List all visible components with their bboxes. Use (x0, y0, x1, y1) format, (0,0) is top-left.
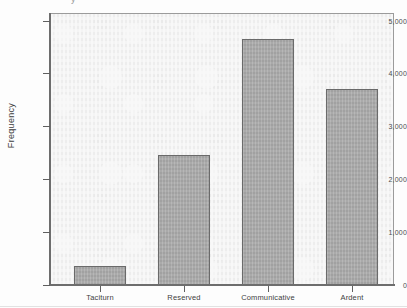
y-axis-tick (43, 232, 50, 233)
bar-chart: y 01,0002,0003,0004,0005,000 Frequency T… (0, 0, 407, 308)
x-axis-label-taciturn: Taciturn (86, 294, 113, 302)
plot-area (50, 13, 394, 285)
x-axis-label-reserved: Reserved (167, 294, 200, 302)
x-axis-label-ardent: Ardent (341, 294, 364, 302)
bar-taciturn (74, 266, 126, 285)
x-axis-tick (100, 286, 101, 292)
x-axis-tick (184, 286, 185, 292)
clipped-title-artifact: y (71, 0, 78, 5)
y-axis-tick-label: 1,000 (366, 229, 407, 236)
clipped-title-text: y (71, 0, 76, 4)
x-axis-tick (268, 286, 269, 292)
page-edge-line (0, 306, 407, 307)
x-axis-tick (352, 286, 353, 292)
bar-communicative (242, 39, 294, 285)
y-axis-tick-label: 4,000 (366, 70, 407, 77)
y-axis-tick-label: 0 (366, 282, 407, 289)
y-axis-tick (43, 179, 50, 180)
y-axis-tick (43, 126, 50, 127)
y-axis-tick (43, 21, 50, 22)
x-axis-label-communicative: Communicative (241, 294, 295, 302)
y-axis-tick (43, 285, 50, 286)
bar-ardent (326, 89, 378, 285)
y-axis-line (49, 13, 51, 286)
bar-reserved (158, 155, 210, 285)
y-axis-tick-label: 5,000 (366, 18, 407, 25)
y-axis-tick-label: 2,000 (366, 176, 407, 183)
y-axis-title: Frequency (7, 90, 16, 162)
y-axis-tick (43, 73, 50, 74)
y-axis-tick-label: 3,000 (366, 123, 407, 130)
